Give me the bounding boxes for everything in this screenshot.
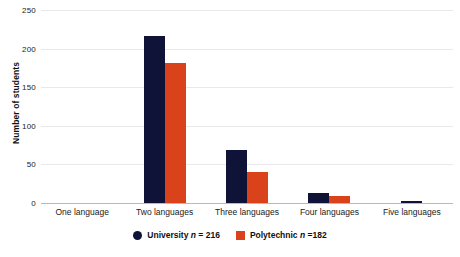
bar-university <box>401 201 422 203</box>
bar-group <box>206 10 288 203</box>
bar-group <box>371 10 453 203</box>
bar-group <box>41 10 123 203</box>
x-tick-label: Five languages <box>371 205 453 221</box>
y-tick-label: 150 <box>22 83 36 92</box>
x-tick-label: One language <box>41 205 123 221</box>
legend-item: University n = 216 <box>133 230 220 240</box>
legend-label: University n = 216 <box>147 230 220 240</box>
x-axis-tick-labels: One languageTwo languagesThree languages… <box>41 205 453 221</box>
bar-university <box>144 36 165 203</box>
legend-square-orange-icon <box>236 231 245 240</box>
x-tick-label: Four languages <box>288 205 370 221</box>
y-tick-label: 250 <box>22 6 36 15</box>
plot-area: 050100150200250 <box>41 10 453 203</box>
bar-university <box>308 193 329 203</box>
bar-polytechnic <box>329 196 350 203</box>
bars-layer <box>41 10 453 203</box>
legend-label: Polytechnic n =182 <box>250 230 327 240</box>
legend-item: Polytechnic n =182 <box>236 230 327 240</box>
bar-group <box>123 10 205 203</box>
grouped-bar-chart: Number of students 050100150200250 One l… <box>0 0 460 257</box>
chart-legend: University n = 216Polytechnic n =182 <box>0 230 460 240</box>
y-axis-title: Number of students <box>8 0 24 205</box>
y-tick-label: 50 <box>27 160 36 169</box>
bar-group <box>288 10 370 203</box>
y-tick-label: 0 <box>31 199 36 208</box>
bar-polytechnic <box>165 63 186 204</box>
x-tick-label: Two languages <box>123 205 205 221</box>
bar-university <box>226 150 247 203</box>
y-tick-label: 200 <box>22 44 36 53</box>
y-axis-title-text: Number of students <box>11 61 21 143</box>
bar-polytechnic <box>247 172 268 203</box>
legend-circle-navy-icon <box>133 231 142 240</box>
y-tick-label: 100 <box>22 121 36 130</box>
x-tick-label: Three languages <box>206 205 288 221</box>
axis-baseline: 0 <box>41 203 453 204</box>
